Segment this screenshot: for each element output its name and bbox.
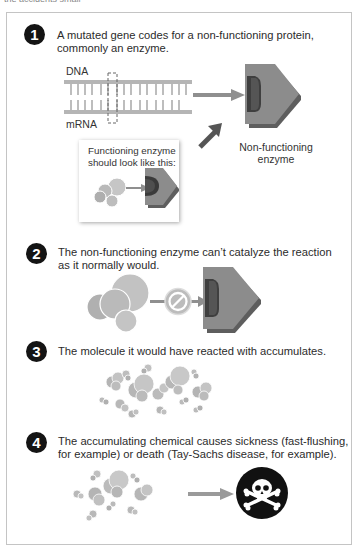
dna-strand-icon [64, 78, 194, 118]
diagonal-arrow-icon [198, 123, 224, 149]
prohibited-sign-icon [150, 287, 210, 317]
enzyme-nonfunctioning-icon [245, 64, 301, 128]
accumulated-molecules-icon [100, 362, 230, 420]
nonfunc-label-line-1: Non-functioning [228, 141, 324, 153]
step-4-line-1: The accumulating chemical causes sicknes… [58, 435, 348, 448]
nonfunctioning-enzyme-label: Non-functioning enzyme [228, 141, 324, 165]
nonfunc-label-line-2: enzyme [228, 153, 324, 165]
enzyme-nonfunctioning-step2-icon [203, 267, 261, 333]
step-1-line-2: commonly an enzyme. [57, 42, 314, 55]
step-2-badge: 2 [26, 243, 47, 264]
inset-line-2: should look like this: [88, 157, 176, 169]
molecule-cluster-small-icon [93, 177, 129, 209]
step-1-line-1: A mutated gene codes for a non-functioni… [57, 29, 314, 42]
step-1-text: A mutated gene codes for a non-functioni… [57, 29, 314, 55]
cutoff-header-text: the accidents small [4, 0, 81, 4]
step-2-text: The non-functioning enzyme can’t catalyz… [58, 246, 332, 272]
step-4-line-2: for example) or death (Tay-Sachs disease… [58, 448, 348, 461]
step-2-line-2: as it normally would. [58, 259, 332, 272]
step-4-badge: 4 [26, 432, 47, 453]
step-2-line-1: The non-functioning enzyme can’t catalyz… [58, 246, 332, 259]
mrna-label: mRNA [66, 118, 97, 130]
accumulated-molecules-step4-icon [67, 466, 167, 524]
step-3-badge: 3 [26, 341, 47, 362]
inset-line-1: Functioning enzyme [88, 145, 176, 157]
arrow-right-step4-icon [188, 488, 234, 500]
inset-caption: Functioning enzyme should look like this… [88, 145, 176, 168]
step-1-badge: 1 [24, 24, 45, 45]
skull-crossbones-icon [236, 467, 288, 519]
dna-label: DNA [66, 65, 88, 77]
molecule-cluster-icon [86, 273, 154, 333]
mutation-marker-icon [107, 72, 119, 124]
step-4-text: The accumulating chemical causes sicknes… [58, 435, 348, 461]
step-3-text: The molecule it would have reacted with … [58, 345, 326, 358]
enzyme-functioning-icon [145, 168, 179, 208]
arrow-right-icon [193, 89, 245, 101]
